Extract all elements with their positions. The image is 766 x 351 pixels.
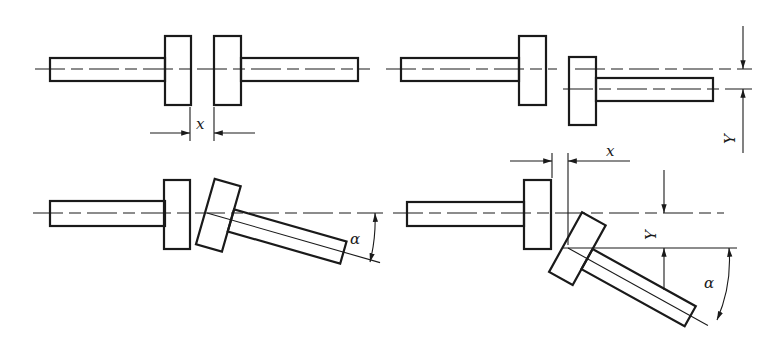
left-hub — [164, 180, 190, 249]
panel-axial-offset: x — [35, 36, 370, 141]
angular-alpha-label: α — [350, 230, 360, 248]
tilted-hub — [549, 212, 606, 285]
angle-arc — [717, 248, 729, 320]
radial-y-label: Y — [721, 132, 739, 144]
panel-angular: α — [33, 179, 390, 295]
axial-x-label: x — [196, 115, 205, 133]
right-hub — [569, 57, 596, 125]
combined-alpha-label: α — [704, 274, 714, 292]
panel-radial-offset: Y x — [386, 26, 752, 245]
misalignment-diagram: x Y x α — [0, 0, 766, 351]
left-hub — [165, 36, 191, 105]
combined-y-label: Y — [642, 228, 660, 240]
left-shaft — [407, 202, 524, 226]
tilted-hub — [196, 179, 241, 252]
left-hub — [524, 180, 551, 249]
panel-combined: Y α — [393, 170, 737, 351]
left-hub — [519, 36, 546, 105]
right-hub — [214, 36, 241, 105]
radial-x-label: x — [606, 142, 615, 160]
tilted-centerline — [568, 248, 708, 326]
angle-arc — [370, 213, 375, 262]
